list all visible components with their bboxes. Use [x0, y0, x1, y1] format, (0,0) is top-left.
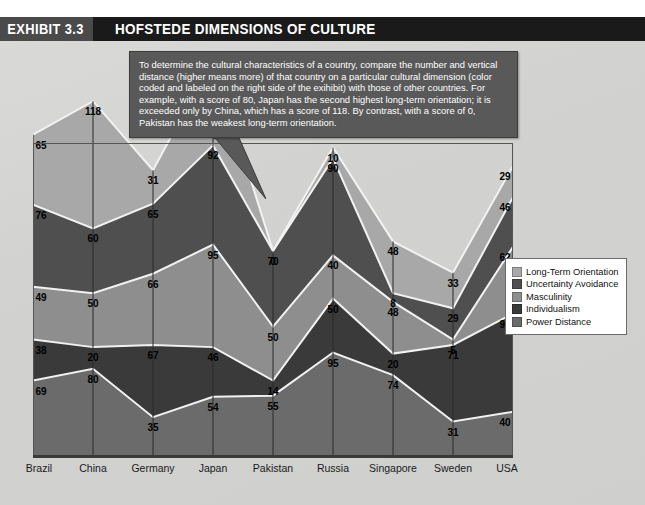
data-label: 55 — [267, 402, 278, 412]
legend-item-3[interactable]: Individualism — [512, 304, 621, 314]
data-label: 46 — [499, 203, 510, 213]
legend-swatch-icon — [512, 317, 522, 327]
data-label: 90 — [327, 164, 338, 174]
data-label: 60 — [87, 234, 98, 244]
data-label: 74 — [387, 381, 398, 391]
legend-item-1[interactable]: Uncertainty Avoidance — [512, 279, 621, 289]
data-label: 33 — [447, 279, 458, 289]
data-label: 80 — [87, 375, 98, 385]
data-label: 14 — [267, 387, 278, 397]
data-label: 0 — [270, 257, 276, 267]
data-label: 5 — [450, 346, 456, 356]
data-label: 40 — [499, 418, 510, 428]
data-label: 118 — [85, 107, 101, 117]
legend-swatch-icon — [512, 292, 522, 302]
callout-pointer — [196, 131, 266, 199]
data-label: 76 — [35, 211, 46, 221]
x-axis-label-singapore: Singapore — [369, 462, 417, 474]
exhibit-root: EXHIBIT 3.3 HOFSTEDE DIMENSIONS OF CULTU… — [0, 0, 645, 505]
legend-item-label: Individualism — [526, 304, 580, 314]
legend-swatch-icon — [512, 267, 522, 277]
data-label: 20 — [387, 360, 398, 370]
x-axis-label-china: China — [79, 462, 106, 474]
data-label: 50 — [87, 299, 98, 309]
data-label: 95 — [327, 359, 338, 369]
x-axis-labels: BrazilChinaGermanyJapanPakistanRussiaSin… — [0, 462, 560, 482]
data-label: 95 — [207, 251, 218, 261]
exhibit-number-tag: EXHIBIT 3.3 — [0, 17, 93, 41]
legend-item-label: Masculinity — [526, 292, 572, 302]
data-label: 20 — [87, 353, 98, 363]
callout-text: To determine the cultural characteristic… — [139, 59, 497, 128]
legend-item-label: Long-Term Orientation — [526, 267, 619, 277]
data-label: 65 — [147, 210, 158, 220]
x-axis-label-brazil: Brazil — [26, 462, 52, 474]
data-label: 40 — [327, 261, 338, 271]
x-axis-label-pakistan: Pakistan — [253, 462, 293, 474]
data-label: 66 — [147, 280, 158, 290]
data-label: 50 — [327, 305, 338, 315]
legend-item-2[interactable]: Masculinity — [512, 292, 621, 302]
page-title: HOFSTEDE DIMENSIONS OF CULTURE — [115, 21, 376, 37]
legend-item-0[interactable]: Long-Term Orientation — [512, 267, 621, 277]
data-label: 31 — [447, 428, 458, 438]
x-axis-label-russia: Russia — [317, 462, 349, 474]
data-label: 54 — [207, 403, 218, 413]
legend-item-label: Power Distance — [526, 317, 591, 327]
legend-item-label: Uncertainty Avoidance — [526, 279, 618, 289]
data-label: 38 — [35, 346, 46, 356]
data-label: 35 — [147, 423, 158, 433]
data-label: 46 — [207, 353, 218, 363]
x-axis-label-sweden: Sweden — [434, 462, 472, 474]
x-axis-line — [33, 455, 513, 458]
legend-item-4[interactable]: Power Distance — [512, 317, 621, 327]
data-label: 29 — [499, 172, 510, 182]
legend-swatch-icon — [512, 304, 522, 314]
data-label: 50 — [267, 333, 278, 343]
x-axis-label-germany: Germany — [131, 462, 174, 474]
x-axis-label-japan: Japan — [199, 462, 228, 474]
data-label: 65 — [35, 141, 46, 151]
chart-legend: Long-Term OrientationUncertainty Avoidan… — [505, 258, 627, 335]
data-label: 48 — [387, 247, 398, 257]
data-label: 29 — [447, 314, 458, 324]
data-label: 49 — [35, 293, 46, 303]
exhibit-title-bar: EXHIBIT 3.3 HOFSTEDE DIMENSIONS OF CULTU… — [0, 17, 645, 41]
data-label: 8 — [390, 299, 396, 309]
data-label: 48 — [387, 308, 398, 318]
x-axis-label-usa: USA — [496, 462, 518, 474]
legend-swatch-icon — [512, 279, 522, 289]
data-label: 31 — [147, 176, 158, 186]
callout-text-box: To determine the cultural characteristic… — [129, 51, 518, 138]
data-label: 67 — [147, 351, 158, 361]
data-label: 10 — [327, 154, 338, 164]
data-label: 69 — [35, 387, 46, 397]
